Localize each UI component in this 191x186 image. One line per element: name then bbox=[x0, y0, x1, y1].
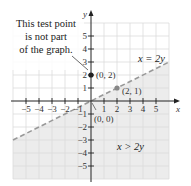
x-tick-label: −4 bbox=[34, 104, 44, 114]
y-tick-label: −3 bbox=[77, 135, 87, 145]
point-0-0-label: (0, 0) bbox=[94, 114, 114, 124]
note-line-3: of the graph. bbox=[19, 44, 72, 55]
y-tick-label: −5 bbox=[77, 161, 87, 171]
graph-canvas: −5 −4 −3 −2 −1 1 2 3 4 5 5 4 3 2 1 −1 −2… bbox=[0, 0, 191, 186]
y-tick-label: −2 bbox=[77, 122, 87, 132]
y-tick-label: 1 bbox=[83, 83, 88, 93]
y-axis-label: y bbox=[82, 9, 87, 19]
boundary-line-label: x = 2y bbox=[137, 53, 165, 64]
y-tick-label: 4 bbox=[83, 44, 88, 54]
y-tick-label: 2 bbox=[83, 70, 88, 80]
region-label: x > 2y bbox=[116, 141, 144, 152]
x-tick-label: −5 bbox=[21, 104, 31, 114]
x-tick-label: 5 bbox=[154, 104, 159, 114]
note-line-2: is not part bbox=[25, 31, 67, 42]
y-tick-label: −4 bbox=[77, 148, 87, 158]
point-2-1 bbox=[114, 85, 119, 90]
x-tick-label: 2 bbox=[115, 104, 120, 114]
point-2-1-label: (2, 1) bbox=[122, 86, 142, 96]
x-axis-label: x bbox=[175, 104, 180, 114]
x-tick-label: 3 bbox=[128, 104, 133, 114]
y-tick-label: 5 bbox=[83, 31, 88, 41]
point-0-2 bbox=[88, 72, 93, 77]
x-tick-label: 1 bbox=[102, 104, 107, 114]
x-tick-label: 4 bbox=[141, 104, 146, 114]
x-tick-label: −3 bbox=[47, 104, 57, 114]
x-tick-label: −2 bbox=[60, 104, 70, 114]
point-0-2-label: (0, 2) bbox=[96, 70, 116, 80]
y-tick-label: −1 bbox=[77, 109, 87, 119]
note-line-1: This test point bbox=[16, 18, 76, 29]
